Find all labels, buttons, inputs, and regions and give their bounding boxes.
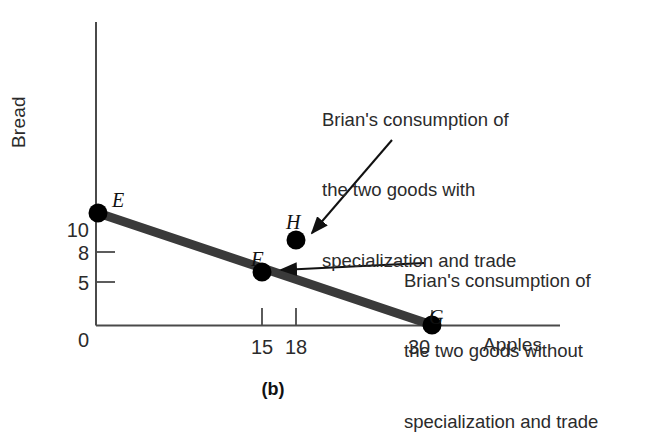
y-tick-label-0: 0 <box>53 329 89 353</box>
point-label-H: H <box>286 211 300 235</box>
data-point-E <box>89 204 108 223</box>
annotation-with-trade-line1: Brian's consumption of <box>322 108 516 131</box>
y-tick-label-8: 8 <box>53 242 89 266</box>
point-label-E: E <box>112 189 124 213</box>
annotation-without-trade-line2: the two goods without <box>404 339 598 362</box>
y-tick-label-5: 5 <box>53 272 89 296</box>
annotation-without-trade-line1: Brian's consumption of <box>404 269 598 292</box>
point-label-F: F <box>251 248 263 272</box>
annotation-without-trade: Brian's consumption of the two goods wit… <box>404 222 598 436</box>
x-tick-label-18: 18 <box>274 336 318 360</box>
figure-caption: (b) <box>0 379 546 400</box>
annotation-with-trade-line2: the two goods with <box>322 178 516 201</box>
y-tick-label-10: 10 <box>53 219 89 243</box>
annotation-without-trade-line3: specialization and trade <box>404 410 598 433</box>
y-axis-title: Bread <box>8 96 30 148</box>
